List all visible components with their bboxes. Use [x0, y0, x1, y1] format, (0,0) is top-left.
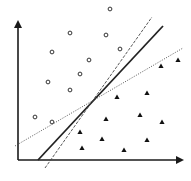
x-axis-arrow-icon [176, 156, 184, 164]
circle-point-icon [68, 88, 72, 92]
triangle-point-icon [158, 64, 163, 68]
circle-point-icon [87, 58, 91, 62]
circle-point-icon [104, 33, 108, 37]
circle-point-icon [46, 80, 50, 84]
circle-point-icon [78, 72, 82, 76]
circle-point-icon [108, 7, 112, 11]
triangle-point-icon [99, 137, 104, 141]
class-circles [33, 7, 122, 124]
decision-boundaries [15, 17, 183, 168]
triangle-point-icon [175, 58, 180, 62]
triangle-point-icon [121, 148, 126, 152]
axes [14, 20, 184, 164]
triangle-point-icon [114, 95, 119, 99]
circle-point-icon [118, 47, 122, 51]
triangle-point-icon [79, 146, 84, 150]
triangle-point-icon [77, 130, 82, 134]
circle-point-icon [50, 120, 54, 124]
svm-diagram [0, 0, 191, 181]
scatter-plot [0, 0, 191, 181]
triangle-point-icon [137, 113, 142, 117]
shallow-boundary [15, 48, 183, 146]
circle-point-icon [68, 31, 72, 35]
triangle-point-icon [144, 91, 149, 95]
circle-point-icon [50, 50, 54, 54]
triangle-point-icon [159, 120, 164, 124]
class-triangles [77, 58, 180, 152]
triangle-point-icon [144, 138, 149, 142]
steep-boundary [45, 17, 152, 168]
triangle-point-icon [103, 117, 108, 121]
circle-point-icon [33, 115, 37, 119]
y-axis-arrow-icon [14, 20, 22, 28]
